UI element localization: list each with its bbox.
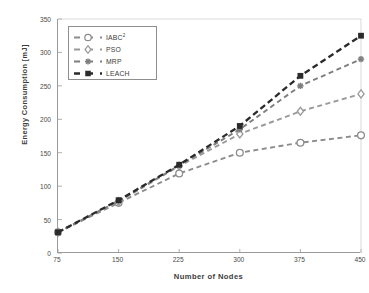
data-point-marker <box>298 73 304 79</box>
x-axis-title: Number of Nodes <box>57 272 360 281</box>
x-tick-label: 75 <box>42 256 72 263</box>
x-tick-label: 450 <box>345 256 369 263</box>
x-tick-label: 150 <box>103 256 133 263</box>
legend-label-text: PSO <box>106 46 121 53</box>
legend-label-text: MRP <box>106 58 122 65</box>
data-point-marker <box>297 107 303 115</box>
y-tick-label: 200 <box>26 116 51 123</box>
legend-swatch-LEACH <box>73 68 103 79</box>
y-tick-label: 50 <box>26 216 51 223</box>
data-point-marker <box>237 123 243 129</box>
series-PSO <box>55 90 364 236</box>
legend-label-PSO: PSO <box>103 46 121 53</box>
y-tick-label: 350 <box>26 16 51 23</box>
legend-swatch-MRP <box>73 56 103 67</box>
legend-swatch-PSO <box>73 44 103 55</box>
data-point-marker <box>358 132 365 139</box>
legend-item-LEACH: LEACH <box>73 67 156 79</box>
legend-item-PSO: PSO <box>73 43 156 55</box>
legend-label-text: LEACH <box>106 70 130 77</box>
legend-swatch-IABC2 <box>73 32 103 43</box>
legend-label-MRP: MRP <box>103 58 122 65</box>
legend-item-MRP: MRP <box>73 55 156 67</box>
x-tick-label: 225 <box>163 256 193 263</box>
data-point-marker <box>55 229 61 235</box>
legend: IABC2PSOMRPLEACH <box>68 26 157 80</box>
data-point-marker <box>85 45 91 53</box>
legend-label-text: IABC <box>106 34 123 41</box>
y-tick-label: 100 <box>26 183 51 190</box>
x-tick-label: 300 <box>224 256 254 263</box>
data-point-marker <box>85 58 91 64</box>
data-point-marker <box>85 70 91 76</box>
chart-container: Energy Consumption [mJ] 0501001502002503… <box>0 0 369 293</box>
data-point-marker <box>176 162 182 168</box>
data-point-marker <box>116 197 122 203</box>
legend-label-superscript: 2 <box>123 33 126 38</box>
legend-label-IABC2: IABC2 <box>103 33 125 41</box>
x-tick-label: 375 <box>284 256 314 263</box>
legend-item-IABC2: IABC2 <box>73 31 156 43</box>
data-point-marker <box>297 83 303 89</box>
data-point-marker <box>236 149 243 156</box>
y-tick-label: 300 <box>26 49 51 56</box>
y-tick-label: 150 <box>26 149 51 156</box>
y-tick-label: 250 <box>26 82 51 89</box>
data-point-marker <box>358 33 364 39</box>
data-point-marker <box>85 34 91 40</box>
legend-label-LEACH: LEACH <box>103 70 130 77</box>
data-point-marker <box>297 139 304 146</box>
